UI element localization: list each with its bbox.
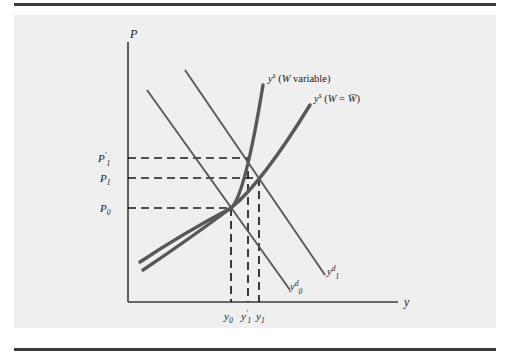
supply-variable-label: ys (W variable) <box>267 71 331 85</box>
output-tick-labels: y0 y′1 y1 <box>223 309 265 325</box>
demand-curves <box>147 70 325 290</box>
demand-1-label: yd1 <box>326 264 339 281</box>
economics-figure: P y P′1 P1 P0 y0 y′1 y1 <box>0 0 510 357</box>
output-tick-y1prime: y′1 <box>240 309 251 325</box>
supply-demand-chart: P y P′1 P1 P0 y0 y′1 y1 <box>0 0 510 357</box>
price-axis-label: P <box>129 27 138 41</box>
price-tick-p1: P1 <box>99 172 110 187</box>
supply-curve-variable-wage <box>140 85 263 262</box>
price-tick-p1prime: P′1 <box>97 151 110 168</box>
output-axis-label: y <box>403 295 410 309</box>
price-tick-p0: P0 <box>99 202 111 217</box>
price-tick-labels: P′1 P1 P0 <box>97 151 111 217</box>
supply-fixed-label: ys (W = W̅) <box>313 91 360 105</box>
output-tick-y0: y0 <box>223 310 233 325</box>
demand-0-label: yd0 <box>289 279 302 296</box>
output-tick-y1: y1 <box>255 310 265 325</box>
